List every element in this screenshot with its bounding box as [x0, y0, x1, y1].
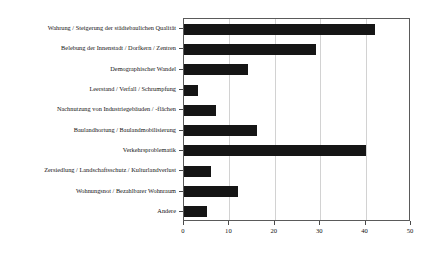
- y-axis-label: Andere: [157, 207, 176, 215]
- y-axis-label: Verkehrsproblematik: [123, 146, 176, 154]
- bar: [184, 64, 248, 75]
- x-axis-tick: [183, 221, 184, 225]
- bar: [184, 186, 238, 197]
- bar: [184, 44, 316, 55]
- bar: [184, 85, 198, 96]
- bar: [184, 24, 375, 35]
- x-axis-tick-label: 30: [316, 226, 323, 235]
- y-axis-label: Wahrung / Steigerung der städtebaulichen…: [48, 24, 176, 32]
- y-axis-label: Belebung der Innenstadt / Dorfkern / Zen…: [61, 44, 176, 52]
- y-axis-category-labels: Wahrung / Steigerung der städtebaulichen…: [0, 18, 183, 221]
- y-axis-label: Wohnungsnot / Bezahlbarer Wohnraum: [76, 187, 176, 195]
- x-axis-tick: [410, 221, 411, 225]
- x-axis-tick: [228, 221, 229, 225]
- bar: [184, 145, 366, 156]
- bar: [184, 206, 207, 217]
- x-axis-tick-label: 40: [361, 226, 368, 235]
- x-axis-tick: [319, 221, 320, 225]
- bar-chart: Wahrung / Steigerung der städtebaulichen…: [0, 0, 431, 268]
- bar: [184, 105, 216, 116]
- bar: [184, 166, 211, 177]
- y-axis-label: Leerstand / Verfall / Schrumpfung: [89, 85, 176, 93]
- x-axis-tick: [365, 221, 366, 225]
- x-axis-tick: [274, 221, 275, 225]
- x-axis-tick-label: 50: [407, 226, 414, 235]
- y-axis-label: Baulandhortung / Baulandmobilisierung: [74, 126, 176, 134]
- bar: [184, 125, 257, 136]
- y-axis-label: Nachnutzung von Industriegebäuden / -flä…: [57, 105, 176, 113]
- x-axis-tick-label: 10: [225, 226, 232, 235]
- x-axis-tick-label: 20: [271, 226, 278, 235]
- plot-area: [183, 18, 410, 221]
- y-axis-label: Demographischer Wandel: [110, 65, 176, 73]
- x-axis-tick-label: 0: [181, 226, 184, 235]
- x-axis: 01020304050: [183, 221, 410, 241]
- bar-series: [184, 19, 409, 220]
- y-axis-label: Zersiedlung / Landschaftsschutz / Kultur…: [44, 166, 176, 174]
